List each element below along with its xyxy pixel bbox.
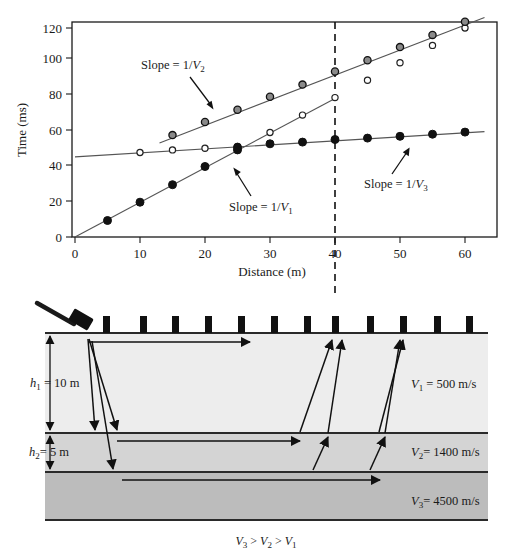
figure-caption: V3 > V2 > V1 [235, 534, 296, 550]
data-point [234, 143, 242, 151]
h2-label: h2= 5 m [29, 445, 69, 461]
data-point [137, 149, 143, 155]
x-tick-label-30: 30 [264, 246, 277, 261]
geophone-icon [466, 316, 473, 333]
data-point [267, 129, 273, 135]
data-point [396, 44, 403, 51]
y-tick-label-60: 60 [49, 123, 62, 138]
geophone-icon [103, 316, 110, 333]
geophone-icon [271, 316, 278, 333]
y-tick-group [66, 28, 72, 237]
geophone-icon [304, 316, 311, 333]
data-point [429, 31, 436, 38]
hammer-head-icon [68, 308, 94, 330]
y-tick-label-100: 100 [43, 51, 63, 66]
data-point [136, 198, 144, 206]
y-tick-label-80: 80 [49, 87, 62, 102]
x-tick-label-50: 50 [394, 246, 407, 261]
x-axis: 0 10 20 30 40 50 60 Distance (m) [72, 237, 472, 279]
y-tick-label-120: 120 [43, 21, 63, 36]
data-point [266, 140, 274, 148]
geophone-array [103, 316, 473, 333]
geophone-icon [434, 316, 441, 333]
data-point [396, 132, 404, 140]
y-axis-title: Time (ms) [14, 103, 29, 157]
geophone-icon [367, 316, 374, 333]
data-point [331, 68, 338, 75]
x-tick-label-20: 20 [199, 246, 212, 261]
data-point [266, 93, 273, 100]
data-point [201, 163, 209, 171]
slope-1-over-V1-label: Slope = 1/V1 [229, 200, 293, 216]
geophone-icon [140, 316, 147, 333]
data-point [429, 130, 437, 138]
seismic-refraction-figure: 0 20 40 60 80 100 120 Time (ms) 0 10 20 … [0, 0, 532, 552]
data-point [397, 60, 403, 66]
geophone-icon [172, 316, 179, 333]
data-point [201, 118, 208, 125]
x-tick-label-60: 60 [459, 246, 472, 261]
data-point [169, 147, 175, 153]
data-point [169, 132, 176, 139]
y-tick-label-0: 0 [56, 230, 63, 245]
y-tick-label-40: 40 [49, 158, 62, 173]
data-point [364, 77, 370, 83]
sledgehammer-source [37, 303, 94, 331]
data-point [104, 217, 112, 225]
geophone-icon [400, 316, 407, 333]
data-point [331, 136, 339, 144]
x-tick-label-10: 10 [134, 246, 147, 261]
data-point [332, 95, 338, 101]
data-point [461, 128, 469, 136]
travel-time-chart: 0 20 40 60 80 100 120 Time (ms) 0 10 20 … [14, 18, 497, 295]
x-axis-title: Distance (m) [238, 264, 306, 279]
data-point [299, 81, 306, 88]
data-point [299, 138, 307, 146]
data-point [169, 181, 177, 189]
layer-3-body [45, 472, 488, 520]
geophone-icon [332, 316, 339, 333]
slope-1-over-V2-label: Slope = 1/V2 [141, 58, 205, 74]
data-point [202, 145, 208, 151]
data-point [364, 57, 371, 64]
y-tick-label-20: 20 [49, 194, 62, 209]
slope-1-over-V3-label: Slope = 1/V3 [364, 177, 428, 193]
h1-label: h1 = 10 m [30, 376, 80, 392]
y-axis: 0 20 40 60 80 100 120 Time (ms) [14, 21, 72, 245]
data-point [234, 106, 241, 113]
data-point [461, 18, 468, 25]
x-tick-label-0: 0 [72, 246, 79, 261]
data-point [364, 134, 372, 142]
data-point [429, 42, 435, 48]
geophone-icon [205, 316, 212, 333]
geophone-icon [238, 316, 245, 333]
subsurface-cross-section: h1 = 10 m h2= 5 m V1 = 500 m/s V2= 1400 … [29, 303, 488, 520]
x-tick-group [75, 237, 465, 243]
hammer-handle-icon [37, 303, 74, 324]
data-point [299, 112, 305, 118]
